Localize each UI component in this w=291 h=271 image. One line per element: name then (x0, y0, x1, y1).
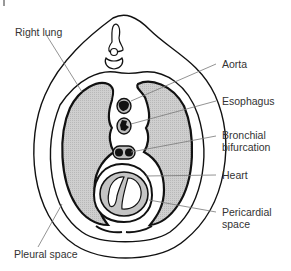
label-bronchial: Bronchial (222, 129, 266, 142)
label-pericardial: Pericardial (222, 206, 272, 219)
label-pericardial-space: space (222, 218, 250, 231)
spinal-canal (111, 49, 118, 56)
label-esophagus: Esophagus (222, 95, 275, 108)
vertebral-body (105, 58, 122, 69)
spinous-process (109, 24, 123, 52)
label-right-lung: Right lung (15, 26, 62, 39)
label-bifurcation: bifurcation (222, 141, 270, 154)
mediastinum (112, 82, 138, 150)
label-pleural-space: Pleural space (14, 248, 78, 261)
label-aorta: Aorta (222, 58, 247, 71)
label-heart: Heart (222, 169, 248, 182)
